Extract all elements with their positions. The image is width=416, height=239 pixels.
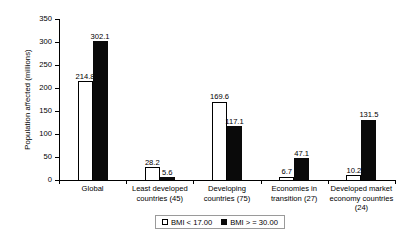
y-tick-label: 150: [39, 106, 52, 115]
legend-item-bmi-under-17: BMI < 17.00: [162, 218, 212, 227]
bar-group: 28.25.6: [126, 19, 193, 180]
bar-group: 10.2131.5: [328, 19, 395, 180]
y-tick-label: 300: [39, 37, 52, 46]
legend-item-bmi-over-30: BMI > = 30.00: [221, 218, 278, 227]
y-tick-label: 250: [39, 60, 52, 69]
bar-bmi-over-30: 47.1: [294, 158, 309, 180]
bar-group: 214.8302.1: [59, 19, 126, 180]
y-tick-label: 200: [39, 83, 52, 92]
bar-bmi-under-17: 214.8: [78, 81, 93, 180]
y-tick-label: 100: [39, 129, 52, 138]
category-label: Developed marketeconomy countries (24): [322, 184, 401, 213]
bar-value-label: 6.7: [281, 167, 292, 176]
bar-bmi-under-17: 6.7: [279, 177, 294, 180]
bar-value-label: 169.6: [210, 92, 229, 101]
chart-legend: BMI < 17.00 BMI > = 30.00: [155, 215, 285, 229]
bar-bmi-over-30: 131.5: [361, 120, 376, 180]
bar-value-label: 131.5: [359, 110, 378, 119]
bar-group: 169.6117.1: [193, 19, 260, 180]
bar-value-label: 5.6: [162, 168, 173, 177]
bar-value-label: 47.1: [294, 149, 309, 158]
y-tick-label: 350: [39, 14, 52, 23]
bar-value-label: 117.1: [225, 117, 243, 126]
bar-bmi-over-30: 302.1: [93, 41, 108, 180]
bar-bmi-over-30: 117.1: [227, 126, 242, 180]
category-label-line: Developed market: [322, 184, 401, 194]
bar-bmi-under-17: 169.6: [212, 102, 227, 180]
x-axis-line: [59, 180, 395, 181]
plot-area: 050100150200250300350 214.8302.128.25.61…: [59, 19, 395, 181]
legend-label-bmi-under-17: BMI < 17.00: [171, 218, 212, 227]
bar-group: 6.747.1: [261, 19, 328, 180]
bar-bmi-under-17: 10.2: [346, 175, 361, 180]
legend-swatch-light-icon: [162, 219, 168, 225]
bar-value-label: 302.1: [91, 32, 110, 41]
y-tick-label: 0: [48, 175, 52, 184]
bar-bmi-under-17: 28.2: [145, 167, 160, 180]
legend-swatch-dark-icon: [221, 219, 227, 225]
y-tick-label: 50: [44, 152, 52, 161]
bar-value-label: 28.2: [145, 158, 160, 167]
bar-chart: Population affected (millions) 050100150…: [0, 0, 416, 239]
y-axis-title: Population affected (millions): [23, 10, 32, 190]
bar-value-label: 10.2: [347, 166, 362, 175]
category-label-line: economy countries (24): [322, 194, 401, 213]
bar-bmi-over-30: 5.6: [160, 177, 175, 180]
legend-label-bmi-over-30: BMI > = 30.00: [230, 218, 278, 227]
